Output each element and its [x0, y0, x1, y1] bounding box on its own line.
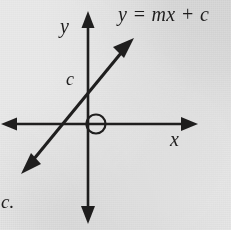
- figure-caption-label: c.: [1, 192, 14, 211]
- line-upper-arrowhead: [113, 38, 134, 58]
- y-intercept-label: c: [66, 70, 74, 88]
- y-axis-label: y: [60, 16, 69, 36]
- x-axis-right-arrowhead: [181, 117, 198, 131]
- x-axis-label: x: [170, 129, 179, 149]
- line-mx-plus-c: [29, 47, 126, 165]
- line-equation-label: y = mx + c: [118, 4, 209, 24]
- graph-canvas: [0, 0, 231, 230]
- y-axis-bottom-arrowhead: [81, 206, 95, 224]
- y-axis-top-arrowhead: [82, 11, 95, 28]
- line-graph-figure: y = mx + c y x c c.: [0, 0, 231, 230]
- x-axis-left-arrowhead: [1, 118, 17, 131]
